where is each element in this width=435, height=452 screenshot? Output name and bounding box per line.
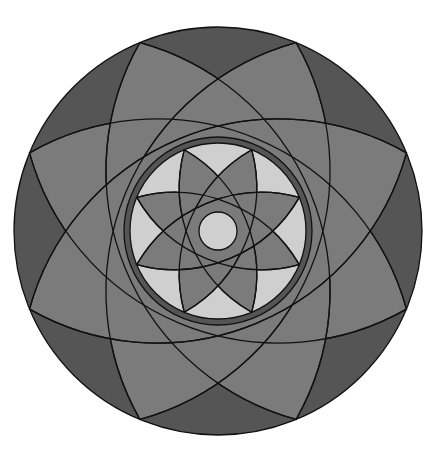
center-circle xyxy=(199,212,237,250)
center-circle xyxy=(199,212,237,250)
rosette-figure xyxy=(0,0,435,452)
